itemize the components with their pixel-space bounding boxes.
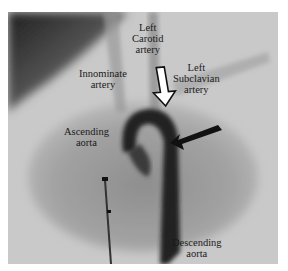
- label-line: Subclavian: [173, 73, 220, 84]
- label-innominate: Innominate artery: [79, 68, 127, 90]
- label-line: Innominate: [79, 68, 127, 79]
- catheter-tip: [102, 177, 108, 181]
- catheter-marker: [107, 210, 111, 213]
- label-ascending-aorta: Ascending aorta: [64, 126, 109, 148]
- label-line: Left: [132, 22, 164, 33]
- label-left-carotid: Left Carotid artery: [132, 22, 164, 55]
- label-line: artery: [79, 79, 127, 90]
- label-line: aorta: [172, 248, 222, 259]
- label-left-subclavian: Left Subclavian artery: [173, 62, 220, 95]
- label-descending-aorta: Descending aorta: [172, 237, 222, 259]
- label-line: Ascending: [64, 126, 109, 137]
- label-line: Left: [173, 62, 220, 73]
- label-line: artery: [132, 44, 164, 55]
- label-line: artery: [173, 84, 220, 95]
- label-line: aorta: [64, 137, 109, 148]
- angiogram-image: Left Carotid artery Innominate artery Le…: [8, 12, 278, 264]
- label-line: Descending: [172, 237, 222, 248]
- label-line: Carotid: [132, 33, 164, 44]
